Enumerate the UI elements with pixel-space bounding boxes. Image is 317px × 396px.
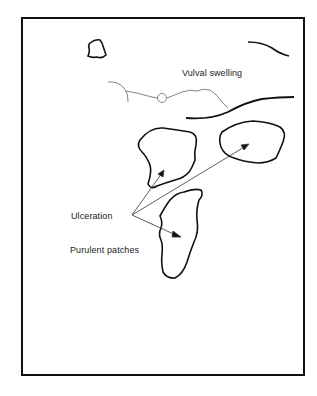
purulent-lesion-lower xyxy=(160,189,203,278)
small-lesion-top-left xyxy=(88,40,106,58)
vulval-outline-line xyxy=(108,82,228,108)
vulval-nodule xyxy=(158,94,167,103)
skin-fold-curve xyxy=(186,97,294,118)
skin-fold-top-right xyxy=(248,42,289,56)
label-vulval-swelling: Vulval swelling xyxy=(182,68,242,78)
label-purulent-patches: Purulent patches xyxy=(70,245,139,255)
ulcer-lesion-right xyxy=(220,121,285,163)
ulcer-lesion-left xyxy=(138,128,196,188)
label-ulceration: Ulceration xyxy=(71,211,113,221)
lesion-illustration xyxy=(0,0,317,396)
